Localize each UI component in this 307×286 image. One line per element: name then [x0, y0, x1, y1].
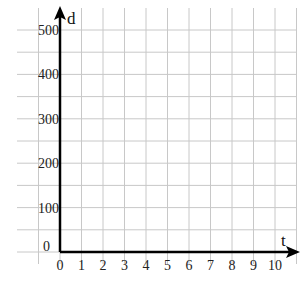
x-axis-label: t: [281, 231, 286, 250]
x-tick-label: 1: [78, 258, 85, 273]
y-tick-label: 500: [38, 23, 59, 38]
x-tick-label: 5: [164, 258, 171, 273]
x-tick-label: 3: [121, 258, 128, 273]
x-tick-label: 8: [229, 258, 236, 273]
y-tick-label: 400: [38, 67, 59, 82]
x-tick-label: 7: [207, 258, 214, 273]
x-tick-label: 2: [100, 258, 107, 273]
x-tick-label: 6: [186, 258, 193, 273]
y-tick-labels: 0100200300400500: [38, 23, 59, 254]
x-tick-label: 4: [143, 258, 150, 273]
axes: [54, 6, 300, 258]
x-tick-labels: 012345678910: [57, 258, 283, 273]
y-tick-label: 300: [38, 112, 59, 127]
y-tick-label: 100: [38, 201, 59, 216]
y-tick-label: 0: [43, 239, 50, 254]
x-tick-label: 0: [57, 258, 64, 273]
distance-time-chart: 012345678910 0100200300400500 t d: [0, 0, 307, 286]
x-tick-label: 10: [268, 258, 282, 273]
y-tick-label: 200: [38, 156, 59, 171]
x-tick-label: 9: [250, 258, 257, 273]
y-axis-label: d: [67, 9, 76, 28]
